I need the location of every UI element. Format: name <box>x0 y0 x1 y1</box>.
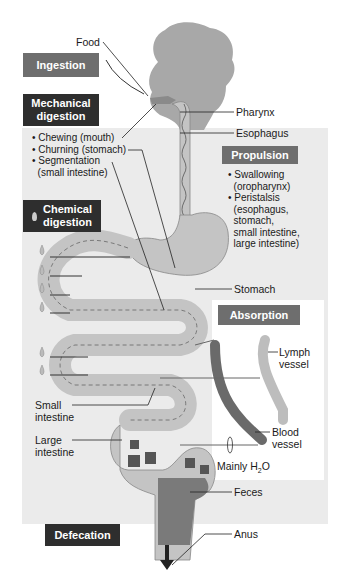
propulsion-item: large intestine) <box>228 238 300 250</box>
absorption-box: Absorption <box>218 305 300 325</box>
esophagus-label: Esophagus <box>236 127 289 139</box>
defecation-label: Defecation <box>54 529 110 542</box>
mechanical-digestion-box: Mechanical digestion <box>23 94 99 126</box>
blood-vessel-label: Blood vessel <box>272 426 302 450</box>
mechanical-item: • Churning (stomach) <box>32 144 126 156</box>
chemical-digestion-box: Chemical digestion <box>23 200 101 232</box>
food-label: Food <box>76 36 100 48</box>
mechanical-item: • Segmentation <box>32 155 126 167</box>
mechanical-item: (small intestine) <box>32 167 126 179</box>
ingestion-label: Ingestion <box>37 59 86 72</box>
propulsion-list: • Swallowing (oropharynx) • Peristalsis … <box>228 169 300 250</box>
ingestion-box: Ingestion <box>23 53 99 77</box>
feces <box>158 478 208 545</box>
chemical-label-2: digestion <box>43 216 92 229</box>
propulsion-item: (esophagus, <box>228 204 300 216</box>
propulsion-item: small intestine, <box>228 227 300 239</box>
mechanical-item: • Chewing (mouth) <box>32 132 126 144</box>
defecation-box: Defecation <box>45 524 120 546</box>
feces-label: Feces <box>234 486 263 498</box>
anus-label: Anus <box>234 528 258 540</box>
head-silhouette <box>149 22 234 130</box>
propulsion-item: (oropharynx) <box>228 181 300 193</box>
propulsion-label: Propulsion <box>231 149 288 162</box>
small-intestine-label: Small intestine <box>35 399 74 423</box>
stomach <box>128 213 228 276</box>
water-label: Mainly H2O <box>217 460 270 477</box>
mechanical-list: • Chewing (mouth) • Churning (stomach) •… <box>32 132 126 178</box>
propulsion-item: • Swallowing <box>228 169 300 181</box>
propulsion-box: Propulsion <box>222 146 298 164</box>
drop-icon <box>32 212 37 221</box>
absorption-label: Absorption <box>230 309 289 322</box>
stomach-label: Stomach <box>234 283 275 295</box>
lymph-vessel-label: Lymph vessel <box>279 346 310 370</box>
digestive-tract-illustration <box>0 0 344 574</box>
propulsion-item: stomach, <box>228 215 300 227</box>
propulsion-item: • Peristalsis <box>228 192 300 204</box>
large-intestine-label: Large intestine <box>35 434 74 458</box>
blood-vessel <box>215 345 262 440</box>
chemical-label-1: Chemical <box>43 203 92 216</box>
pharynx-label: Pharynx <box>236 106 275 118</box>
mechanical-label-2: digestion <box>37 110 86 123</box>
mechanical-label-1: Mechanical <box>31 97 90 110</box>
